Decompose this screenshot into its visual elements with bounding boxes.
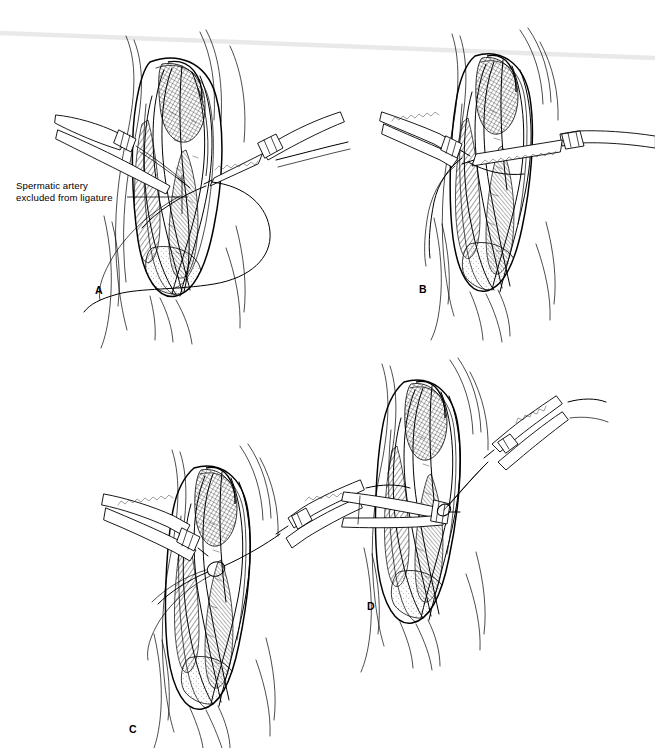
- panel-c-clamp-left: [102, 494, 208, 561]
- panel-label-c: C: [129, 723, 137, 735]
- annotation-spermatic-artery: Spermatic arteryexcluded from ligature: [16, 180, 113, 203]
- panel-a-hemostat-right: [204, 112, 350, 186]
- illustration-canvas: [0, 0, 655, 748]
- panel-label-d: D: [367, 600, 375, 612]
- annotation-line-2: excluded from ligature: [16, 192, 113, 203]
- panel-label-b: B: [419, 283, 427, 295]
- panel-d-needle-holder-right: [484, 396, 608, 470]
- surgical-figure: Spermatic arteryexcluded from ligature A…: [0, 0, 655, 748]
- annotation-line-1: Spermatic artery: [16, 180, 88, 191]
- panel-d-illustration: [342, 358, 608, 672]
- panel-b-left-jaw-serrations: [392, 112, 439, 121]
- panel-b-hemostat-left: [380, 112, 470, 167]
- panel-c-illustration: [102, 444, 410, 748]
- panel-label-a: A: [95, 284, 103, 296]
- scan-artifact-line: [0, 33, 655, 58]
- panel-b-hemostat-right: [462, 131, 655, 166]
